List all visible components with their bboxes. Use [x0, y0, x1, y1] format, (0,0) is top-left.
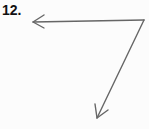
- down-ray: [97, 20, 144, 118]
- down-arrowhead-icon: [95, 104, 108, 118]
- left-ray: [33, 20, 144, 22]
- angle-diagram: [0, 0, 149, 129]
- problem-12: 12.: [0, 0, 149, 129]
